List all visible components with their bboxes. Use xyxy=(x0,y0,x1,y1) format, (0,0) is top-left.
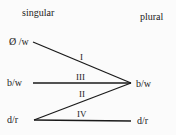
edge-III-label: III xyxy=(76,72,85,82)
edge-IV-line xyxy=(34,120,131,121)
node-left-zero-w: Ø /w xyxy=(9,36,30,47)
edge-IV-label: IV xyxy=(77,109,87,119)
singular-header: singular xyxy=(22,7,55,18)
node-right-b-w: b/w xyxy=(136,78,152,89)
edge-II-label: II xyxy=(79,89,85,99)
edge-I-label: I xyxy=(80,52,83,62)
diagram-canvas: singular plural Ø /w b/w d/r b/w d/r I I… xyxy=(0,0,176,135)
node-left-b-w: b/w xyxy=(7,77,23,88)
plural-header: plural xyxy=(140,11,164,22)
node-left-d-r: d/r xyxy=(7,114,19,125)
declension-diagram: singular plural Ø /w b/w d/r b/w d/r I I… xyxy=(0,0,176,135)
node-right-d-r: d/r xyxy=(137,115,149,126)
